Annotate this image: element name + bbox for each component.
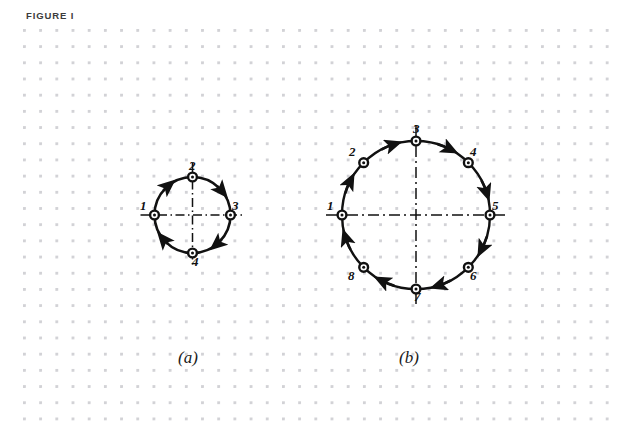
figure-page: FIGURE I 123412345678 (a) (b) xyxy=(0,0,636,439)
node-label-b-6: 6 xyxy=(470,269,477,282)
panel-caption-a: (a) xyxy=(178,348,198,368)
node-label-b-5: 5 xyxy=(492,199,499,212)
node-label-a-2: 2 xyxy=(189,159,196,172)
node-label-b-7: 7 xyxy=(414,290,421,303)
node-label-b-2: 2 xyxy=(349,145,356,158)
node-label-a-4: 4 xyxy=(192,255,199,268)
node-label-a-1: 1 xyxy=(140,199,147,212)
figure-title: FIGURE I xyxy=(26,10,74,21)
panel-caption-b: (b) xyxy=(399,348,419,368)
node-label-b-4: 4 xyxy=(470,145,477,158)
node-label-b-3: 3 xyxy=(413,122,420,135)
node-label-a-3: 3 xyxy=(232,199,239,212)
node-label-b-8: 8 xyxy=(348,269,355,282)
dot-grid-background xyxy=(23,29,617,423)
node-label-b-1: 1 xyxy=(327,199,334,212)
